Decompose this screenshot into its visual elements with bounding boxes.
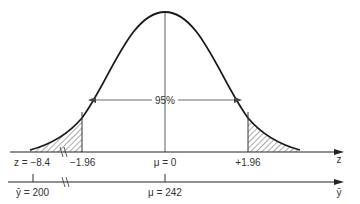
- normal-distribution-diagram: 95% z z = −8.4 −1.96 μ = 0 +1.96 ȳ ȳ = 2…: [0, 0, 360, 204]
- z-tick-label-2: μ = 0: [154, 157, 177, 168]
- z-tick-label-1: −1.96: [70, 157, 96, 168]
- z-tick-label-3: +1.96: [235, 157, 261, 168]
- ybar-axis-name: ȳ: [337, 187, 342, 198]
- ybar-tick-label-0: ȳ = 200: [16, 187, 50, 198]
- ybar-tick-label-1: μ = 242: [148, 187, 182, 198]
- interval-label: 95%: [155, 95, 175, 106]
- z-axis-name: z: [337, 154, 342, 165]
- z-tick-label-0: z = −8.4: [14, 157, 51, 168]
- ybar-axis-arrow-icon: [334, 179, 344, 185]
